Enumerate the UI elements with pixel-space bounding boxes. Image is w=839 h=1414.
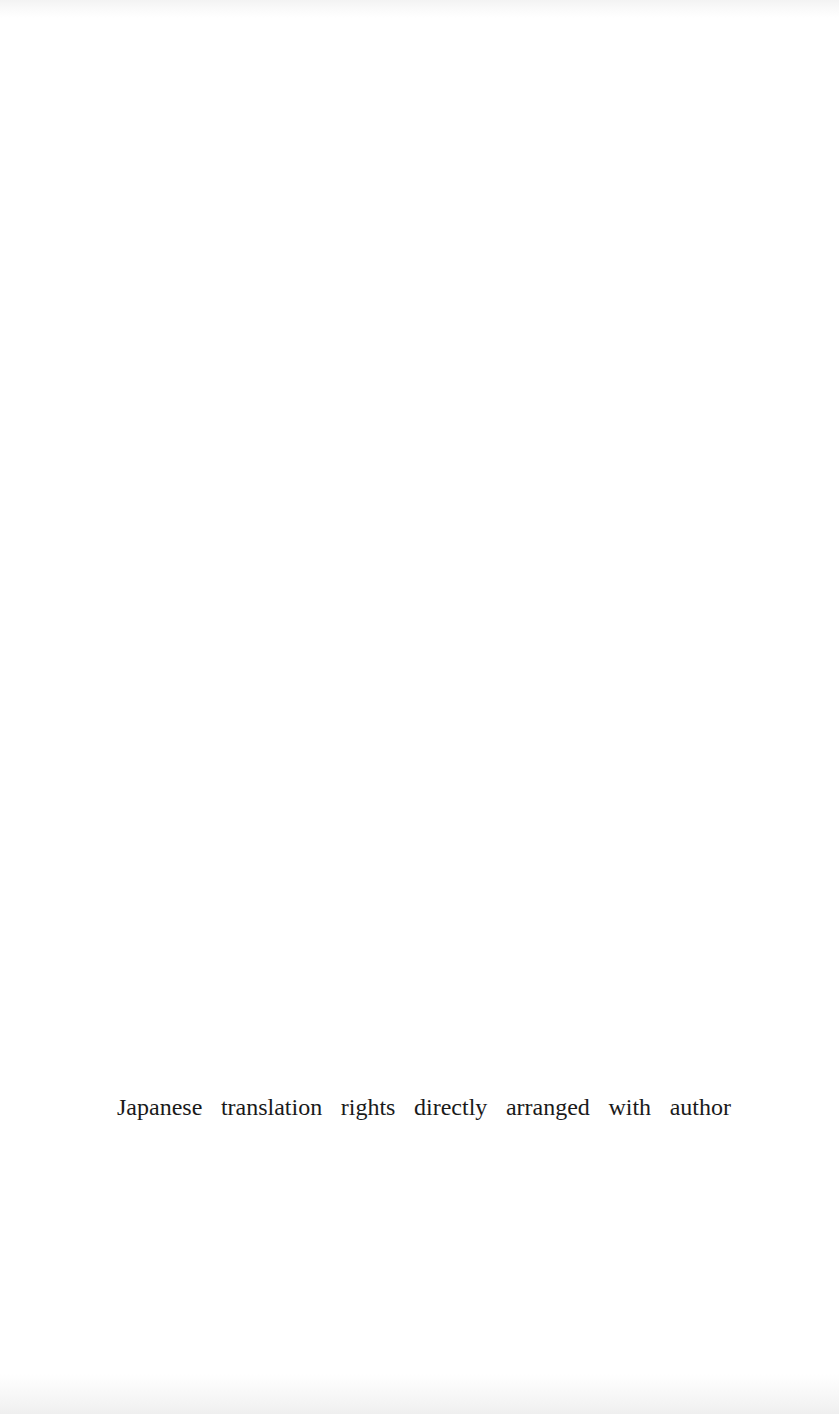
rights-notice-word: Japanese xyxy=(117,1091,202,1123)
rights-notice-word: arranged xyxy=(506,1091,590,1123)
rights-notice-word: directly xyxy=(414,1091,487,1123)
scan-edge-bottom xyxy=(0,1374,839,1414)
rights-notice: Japanese translation rights directly arr… xyxy=(117,1091,731,1123)
rights-notice-word: with xyxy=(608,1091,651,1123)
book-page: Japanese translation rights directly arr… xyxy=(0,0,839,1414)
rights-notice-word: author xyxy=(670,1091,731,1123)
rights-notice-word: rights xyxy=(341,1091,396,1123)
rights-notice-word: translation xyxy=(221,1091,322,1123)
scan-edge-top xyxy=(0,0,839,18)
